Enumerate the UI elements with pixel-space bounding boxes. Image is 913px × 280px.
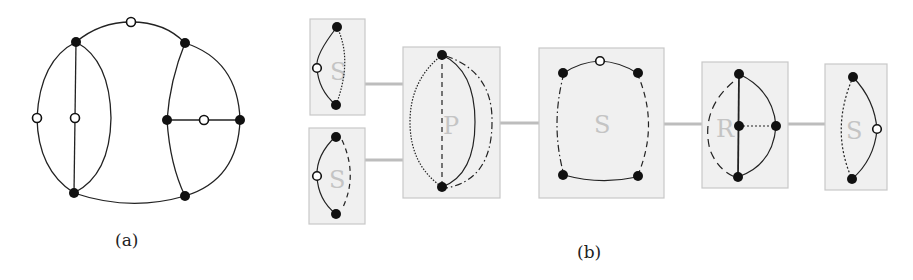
caption-b: (b): [577, 242, 601, 262]
graph-a-vertices: [33, 18, 246, 202]
node-label: P: [443, 112, 459, 140]
node-label: S: [846, 117, 862, 145]
node-label: S: [594, 111, 610, 139]
caption-a: (a): [115, 230, 138, 250]
node-label: S: [329, 166, 345, 194]
graph-a: [37, 22, 240, 203]
node-label: R: [716, 115, 735, 143]
